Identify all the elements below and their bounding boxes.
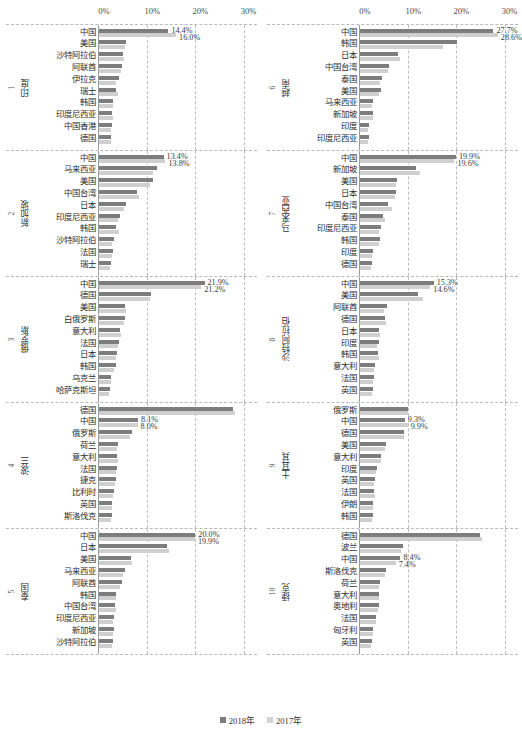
bar-2017 (360, 128, 368, 132)
bar-2018 (99, 29, 168, 33)
bar-2018 (99, 568, 125, 572)
category-label: 意大利 (333, 454, 357, 462)
bar-2018 (360, 190, 396, 194)
bar-2017 (99, 321, 124, 325)
bar-2017 (360, 344, 377, 348)
chart-panel: 4波兰德国中国俄罗斯荷兰意大利法国捷克比利时英国斯洛伐克8.1%8.0% (6, 402, 257, 528)
bar-2018 (360, 592, 379, 596)
category-label: 伊拉克 (72, 76, 96, 84)
left-panel-column: 0%10%20%30% 1印度中国美国沙特阿拉伯阿联酋伊拉克瑞士韩国印度尼西亚中… (0, 0, 261, 700)
panels-left: 1印度中国美国沙特阿拉伯阿联酋伊拉克瑞士韩国印度尼西亚中国香港德国14.4%16… (6, 24, 257, 655)
panels-right: 6越南中国韩国日本中国台湾泰国美国马来西亚新加坡印度印度尼西亚27.7%28.6… (267, 24, 518, 655)
bar-2017 (360, 116, 373, 120)
category-label: 马来西亚 (325, 99, 357, 107)
bar-2018 (360, 76, 382, 80)
category-label-column: 德国中国俄罗斯荷兰意大利法国捷克比利时英国斯洛伐克 (36, 403, 98, 528)
category-label: 法国 (80, 466, 96, 474)
bar-2018 (99, 292, 151, 296)
bar-2018 (360, 304, 387, 308)
category-label: 德国 (341, 533, 357, 541)
category-label: 印度尼西亚 (317, 135, 357, 143)
category-label-column: 中国日本美国马来西亚阿联酋韩国中国台湾印度尼西亚新加坡沙特阿拉伯 (36, 529, 98, 654)
bar-2017 (99, 506, 112, 510)
bar-2017 (99, 380, 111, 384)
bar-2018 (360, 155, 456, 159)
bar-2017 (360, 573, 385, 577)
category-label: 中国 (341, 281, 357, 289)
bar-2018 (99, 418, 138, 422)
bar-2018 (99, 407, 233, 411)
grid-line (195, 25, 196, 150)
grid-line (244, 25, 245, 150)
category-label: 中国 (341, 29, 357, 37)
category-label: 中国 (80, 533, 96, 541)
bar-2018 (99, 237, 114, 241)
bar-2017 (360, 285, 430, 289)
panel-country-label: 波兰 (17, 403, 36, 528)
category-label: 意大利 (333, 592, 357, 600)
bar-2017 (360, 596, 379, 600)
data-label-2017: 19.6% (457, 160, 478, 168)
bar-2017 (99, 435, 130, 439)
bar-2018 (99, 603, 115, 607)
bar-2017 (360, 447, 385, 451)
bar-2018 (99, 442, 118, 446)
panel-country-label: 印度 (17, 25, 36, 150)
bar-2018 (360, 225, 381, 229)
panel-index: 6 (267, 25, 278, 150)
category-label: 日本 (80, 202, 96, 210)
chart-panel: 2新加坡中国马来西亚美国中国台湾日本印度尼西亚韩国沙特阿拉伯法国瑞士13.4%1… (6, 150, 257, 276)
bar-2017 (99, 81, 116, 85)
category-label: 印度尼西亚 (56, 214, 96, 222)
bar-2017 (99, 207, 124, 211)
category-label: 德国 (341, 430, 357, 438)
bar-2018 (360, 237, 380, 241)
bar-2018 (99, 363, 116, 367)
bar-2017 (360, 470, 376, 474)
category-label: 中国台湾 (64, 190, 96, 198)
category-label: 日本 (80, 544, 96, 552)
grid-line (505, 277, 506, 402)
bar-2018 (99, 261, 111, 265)
category-label: 日本 (341, 52, 357, 60)
bar-2018 (99, 178, 153, 182)
grouped-bar-chart-figure: 0%10%20%30% 1印度中国美国沙特阿拉伯阿联酋伊拉克瑞士韩国印度尼西亚中… (0, 0, 522, 732)
category-label: 韩国 (341, 351, 357, 359)
bar-2017 (99, 266, 110, 270)
category-label: 马来西亚 (64, 166, 96, 174)
legend-label: 2018年 (229, 714, 255, 726)
category-label: 印度 (341, 466, 357, 474)
x-axis-tick-label: 0% (98, 6, 109, 16)
panel-plot-area: 15.3%14.6% (359, 277, 518, 402)
grid-line (505, 403, 506, 528)
data-label-2017: 28.6% (501, 34, 522, 42)
category-label-column: 中国德国美国白俄罗斯意大利法国日本韩国乌克兰哈萨克斯坦 (36, 277, 98, 402)
grid-line (505, 25, 506, 150)
bar-2018 (360, 135, 369, 139)
category-label: 美国 (341, 178, 357, 186)
bar-2017 (360, 482, 374, 486)
bar-2018 (360, 407, 408, 411)
bar-2018 (360, 166, 416, 170)
category-label: 波兰 (341, 544, 357, 552)
grid-line (195, 277, 196, 402)
chart-panel: 5泰国中国日本美国马来西亚阿联酋韩国中国台湾印度尼西亚新加坡沙特阿拉伯20.0%… (6, 528, 257, 655)
category-label: 中国 (80, 281, 96, 289)
bar-2018 (99, 281, 205, 285)
data-label-2017: 8.0% (141, 423, 158, 431)
bar-2018 (99, 501, 112, 505)
category-label: 韩国 (341, 237, 357, 245)
category-label: 瑞士 (80, 88, 96, 96)
bar-2018 (360, 111, 373, 115)
panel-plot-area: 27.7%28.6% (359, 25, 518, 150)
bar-2017 (99, 92, 118, 96)
x-axis-tick-label: 30% (241, 6, 257, 16)
bar-2017 (360, 69, 388, 73)
bar-2017 (360, 506, 373, 510)
chart-panel: 9土耳其俄罗斯中国德国美国意大利印度英国法国伊朗韩国9.3%9.9% (267, 402, 518, 528)
category-label: 印度尼西亚 (56, 111, 96, 119)
panel-columns: 0%10%20%30% 1印度中国美国沙特阿拉伯阿联酋伊拉克瑞士韩国印度尼西亚中… (0, 0, 522, 700)
bar-2018 (99, 249, 113, 253)
panel-country-label: 俄罗斯 (17, 277, 36, 402)
grid-line (408, 529, 409, 654)
